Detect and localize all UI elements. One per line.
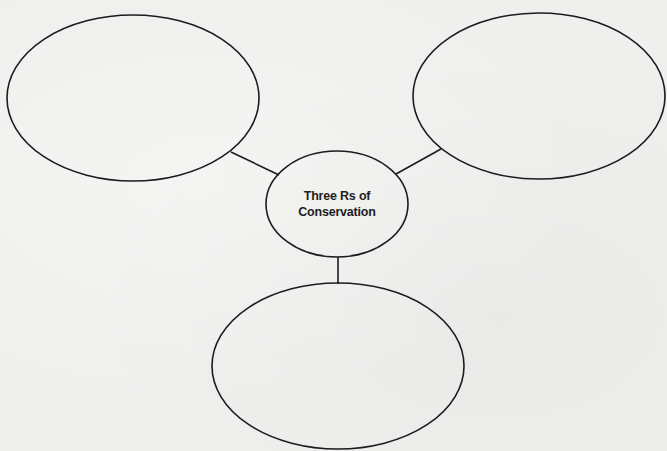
node-top-right-writing-area[interactable] <box>413 13 665 179</box>
center-node-label: Three Rs of Conservation <box>266 151 408 257</box>
center-label-line1: Three Rs of <box>304 188 371 204</box>
node-bottom-writing-area[interactable] <box>212 283 464 449</box>
node-top-left-writing-area[interactable] <box>7 15 259 181</box>
center-label-line2: Conservation <box>298 204 375 220</box>
